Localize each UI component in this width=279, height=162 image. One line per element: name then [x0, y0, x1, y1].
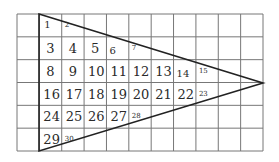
grid-lines — [0, 0, 279, 162]
cell-number: 4 — [69, 42, 77, 55]
cell-number: 16 — [43, 88, 60, 101]
cell-number: 27 — [110, 110, 127, 123]
cell-number: 22 — [178, 88, 195, 101]
cell-number: 11 — [110, 65, 127, 78]
cell-number: 12 — [133, 65, 150, 78]
cell-number: 2 — [65, 22, 69, 29]
cell-number: 15 — [199, 68, 208, 75]
cell-number: 1 — [44, 20, 50, 30]
cell-number: 3 — [46, 42, 54, 55]
cell-number: 7 — [132, 45, 136, 52]
cell-number: 26 — [88, 110, 105, 123]
cell-number: 30 — [65, 136, 74, 143]
cell-number: 10 — [88, 65, 105, 78]
cell-number: 28 — [132, 113, 141, 120]
cell-number: 19 — [110, 88, 127, 101]
cell-number: 8 — [46, 65, 54, 78]
cell-number: 25 — [66, 110, 83, 123]
cell-number: 13 — [155, 65, 172, 78]
cell-number: 9 — [69, 65, 77, 78]
cell-number: 24 — [43, 110, 60, 123]
cell-number: 18 — [88, 88, 105, 101]
cell-number: 23 — [199, 91, 208, 98]
grid-triangle-diagram: 1 2 3 4 5 6 7 8 9 10 11 12 13 14 15 16 1… — [0, 0, 279, 162]
cell-number: 20 — [133, 88, 150, 101]
cell-number: 17 — [66, 88, 83, 101]
cell-number: 29 — [43, 133, 60, 146]
cell-number: 21 — [155, 88, 172, 101]
cell-number: 6 — [109, 46, 115, 56]
cell-number: 14 — [177, 69, 190, 79]
cell-number: 5 — [91, 42, 99, 55]
